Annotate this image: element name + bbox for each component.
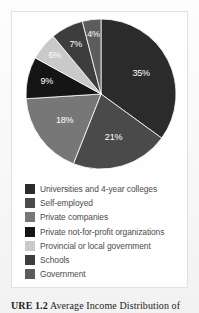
legend-swatch-icon [25,198,35,208]
chart-legend: Universities and 4-year colleges Self-em… [25,182,187,281]
legend-item-self-employed[interactable]: Self-employed [25,196,187,210]
legend-item-label: Schools [40,255,69,265]
legend-swatch-icon [25,269,35,279]
legend-swatch-icon [25,212,35,222]
legend-item-schools[interactable]: Schools [25,253,187,267]
figure-card: 35%21%18%9%6%7%4% Universities and 4-yea… [11,11,188,288]
figure-caption: URE 1.2 Average Income Distribution of [11,300,197,313]
legend-swatch-icon [25,227,35,237]
legend-item-label: Private not-for-profit organizations [40,227,164,237]
legend-item-label: Private companies [40,212,108,222]
legend-item-private-companies[interactable]: Private companies [25,210,187,224]
legend-swatch-icon [25,255,35,265]
pie-slice-label: 21% [104,132,122,142]
pie-slice-label: 4% [87,29,100,39]
legend-swatch-icon [25,184,35,194]
pie-slice-label: 9% [40,76,53,86]
legend-item-label: Self-employed [40,198,93,208]
pie-slice-label: 18% [55,115,73,125]
pie-chart-svg: 35%21%18%9%6%7%4% [25,18,177,170]
pie-chart: 35%21%18%9%6%7%4% [12,12,188,177]
legend-item-provincial-government[interactable]: Provincial or local government [25,239,187,253]
legend-item-label: Provincial or local government [40,241,151,251]
legend-item-label: Universities and 4-year colleges [40,184,157,194]
figure-caption-body: Average Income Distribution of [48,300,180,311]
legend-item-label: Government [40,269,86,279]
legend-item-government[interactable]: Government [25,267,187,281]
legend-item-not-for-profit[interactable]: Private not-for-profit organizations [25,225,187,239]
legend-swatch-icon [25,241,35,251]
pie-slice-label: 7% [69,39,82,49]
figure-caption-number: URE 1.2 [11,300,48,311]
legend-item-universities[interactable]: Universities and 4-year colleges [25,182,187,196]
pie-slice-label: 6% [48,50,61,60]
pie-slice-label: 35% [132,68,150,78]
figure-caption-text: URE 1.2 Average Income Distribution of [11,300,197,311]
